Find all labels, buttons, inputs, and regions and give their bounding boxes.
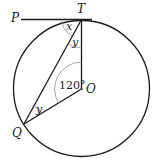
- label-P: P: [10, 11, 20, 25]
- label-O: O: [86, 82, 96, 96]
- label-T: T: [77, 2, 86, 16]
- angle-label-120: 120°: [59, 79, 86, 92]
- angle-label-x: x: [66, 20, 73, 33]
- radius-OQ: [24, 89, 82, 124]
- angle-label-y-bottom: y: [35, 103, 43, 116]
- circle-geometry-diagram: P T O Q x y 120° y: [0, 0, 156, 163]
- label-Q: Q: [12, 126, 22, 140]
- angle-label-y-top: y: [71, 36, 79, 49]
